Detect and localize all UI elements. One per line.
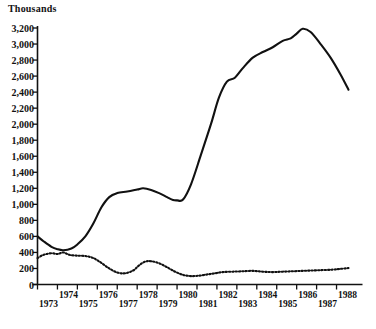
chart-container: Thousands 02004006008001,0001,2001,4001,… xyxy=(0,0,376,329)
series-line-dotted-series xyxy=(38,252,349,276)
plot-area xyxy=(0,0,376,329)
series-line-solid-series xyxy=(38,29,349,250)
axes-group xyxy=(33,26,363,290)
series-group xyxy=(38,29,349,276)
